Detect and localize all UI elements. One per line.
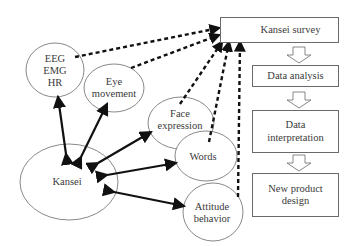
process-data-interpretation-label: Data interpretation <box>267 119 324 144</box>
down-arrow-icon <box>287 155 311 171</box>
edge-kansei-face <box>98 132 151 163</box>
edge-attitude-survey <box>238 42 240 197</box>
process-data-interpretation: Data interpretation <box>252 110 339 153</box>
process-kansei-survey-label: Kansei survey <box>239 24 321 37</box>
node-eeg-label: EEG EMG HR <box>43 53 66 89</box>
node-kansei-label: Kansei <box>52 176 81 188</box>
edge-kansei-attitude <box>114 192 184 206</box>
process-data-analysis: Data analysis <box>252 65 339 87</box>
process-data-analysis-label: Data analysis <box>267 70 323 83</box>
down-arrow-icon <box>287 92 311 108</box>
process-kansei-survey: Kansei survey <box>220 17 339 43</box>
edge-eye-survey <box>131 35 219 68</box>
process-new-product-design-label: New product design <box>268 183 323 208</box>
node-face-label: Face expression <box>158 108 203 132</box>
process-new-product-design: New product design <box>252 173 339 217</box>
node-attitude-label: Attitude behavior <box>194 201 231 225</box>
down-arrow-icon <box>287 47 311 63</box>
edge-face-survey <box>180 42 222 104</box>
edge-kansei-words <box>107 163 176 175</box>
node-eye-label: Eye movement <box>92 76 136 100</box>
node-words-label: Words <box>189 151 216 163</box>
